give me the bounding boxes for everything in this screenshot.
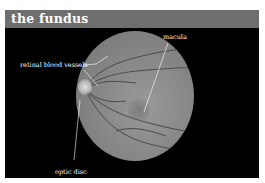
label-retinal-blood-vessels: retinal blood vessels — [20, 61, 88, 69]
macula-spot — [128, 99, 150, 121]
optic-disc-spot — [78, 79, 92, 95]
header-bar: the fundus — [5, 10, 259, 28]
figure-title: the fundus — [11, 10, 89, 28]
fundus-image — [76, 31, 194, 161]
label-macula: macula — [163, 33, 187, 41]
retinal-vessels-graphic — [76, 31, 194, 161]
label-optic-disc: optic disc — [55, 168, 87, 176]
